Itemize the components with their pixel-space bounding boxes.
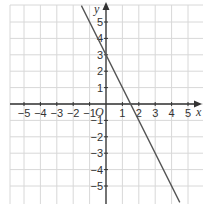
y-tick-label: 5 xyxy=(97,16,103,28)
x-tick-label: −3 xyxy=(51,107,64,119)
x-tick-label: −4 xyxy=(34,107,47,119)
y-axis-arrow-icon xyxy=(103,2,110,10)
axes xyxy=(10,2,202,204)
x-tick-label: 5 xyxy=(185,107,191,119)
origin-label: O xyxy=(95,105,104,119)
x-tick-label: 4 xyxy=(169,107,175,119)
x-tick-label: −2 xyxy=(67,107,80,119)
y-tick-label: −4 xyxy=(90,164,103,176)
y-tick-label: −5 xyxy=(90,180,103,192)
x-tick-label: 3 xyxy=(152,107,158,119)
x-tick-label: −5 xyxy=(18,107,31,119)
y-tick-label: −2 xyxy=(90,131,103,143)
y-axis-label: y xyxy=(93,2,100,16)
x-axis-label: x xyxy=(195,105,202,119)
y-tick-label: 2 xyxy=(97,65,103,77)
y-tick-label: 3 xyxy=(97,49,103,61)
y-tick-label: 1 xyxy=(97,82,103,94)
coordinate-graph: −5−4−3−2−112345−5−4−3−2−112345 x y O xyxy=(0,0,203,204)
y-tick-label: −3 xyxy=(90,147,103,159)
x-tick-label: 1 xyxy=(119,107,125,119)
